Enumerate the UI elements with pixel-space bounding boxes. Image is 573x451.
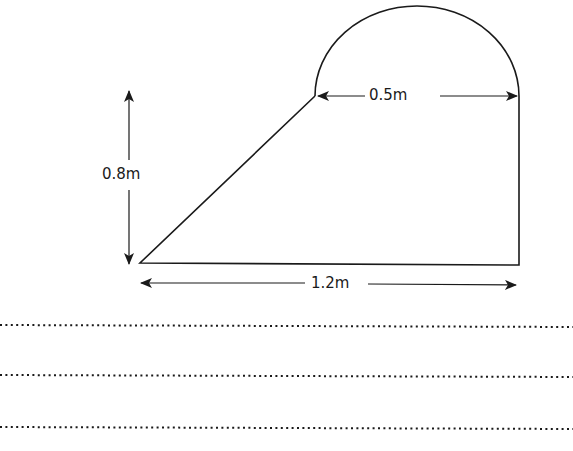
semicircle-outline xyxy=(315,6,519,96)
trapezium-outline xyxy=(140,96,519,265)
base-label: 1.2m xyxy=(308,274,352,292)
height-label: 0.8m xyxy=(99,165,143,183)
base-arrow-right xyxy=(368,284,516,285)
composite-shape-diagram xyxy=(0,0,573,451)
answer-line-2 xyxy=(0,375,573,377)
diameter-label: 0.5m xyxy=(366,86,410,104)
answer-line-1 xyxy=(0,325,573,327)
answer-line-3 xyxy=(0,427,573,429)
